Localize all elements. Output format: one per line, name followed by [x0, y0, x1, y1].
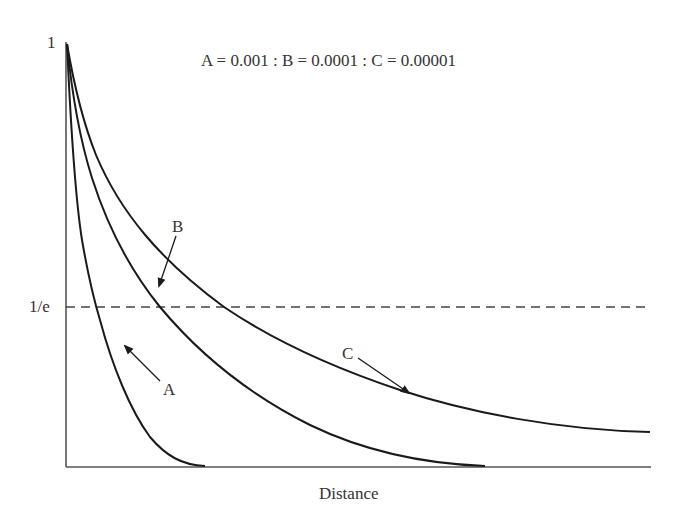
curve-a — [67, 44, 205, 466]
label-curve-a: A — [163, 381, 175, 398]
arrow-c — [358, 358, 409, 393]
arrow-a — [125, 346, 160, 381]
label-curve-c: C — [342, 345, 353, 362]
chart-title: A = 0.001 : B = 0.0001 : C = 0.00001 — [201, 52, 456, 69]
curve-c — [67, 44, 650, 432]
y-tick-1: 1 — [47, 34, 56, 51]
x-axis-label: Distance — [319, 485, 378, 502]
chart-canvas — [0, 0, 680, 521]
label-curve-b: B — [172, 218, 183, 235]
arrow-b — [159, 236, 176, 286]
y-tick-1-over-e: 1/e — [29, 298, 50, 315]
